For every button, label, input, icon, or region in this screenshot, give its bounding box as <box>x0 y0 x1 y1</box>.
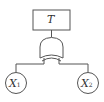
x2-symbol: X <box>81 77 89 90</box>
connector-left <box>16 58 44 72</box>
x1-subscript: 1 <box>17 81 21 88</box>
basic-event-x2-label: X2 <box>81 78 93 89</box>
basic-event-x1-label: X1 <box>9 78 21 89</box>
gate-base-curve <box>42 58 61 61</box>
connector-right <box>59 58 88 72</box>
top-event-label: T <box>47 14 54 25</box>
x1-symbol: X <box>9 77 17 90</box>
or-gate-icon <box>40 38 63 59</box>
x2-subscript: 2 <box>89 81 93 88</box>
